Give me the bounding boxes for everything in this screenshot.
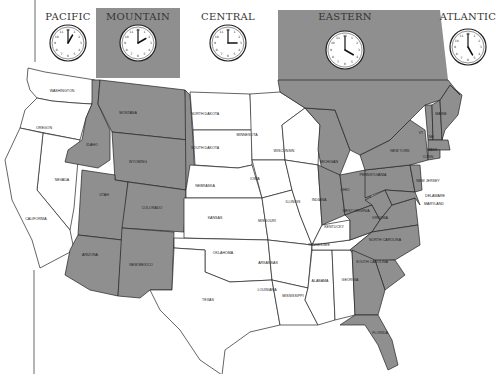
svg-text:9: 9 <box>454 45 456 49</box>
svg-text:8: 8 <box>332 55 334 59</box>
svg-text:4: 4 <box>78 48 80 52</box>
zone-label-eastern: EASTERN <box>318 11 372 22</box>
svg-text:2: 2 <box>78 35 80 39</box>
label-georgia: GEORGIA <box>342 278 359 282</box>
label-utah: UTAH <box>99 193 109 197</box>
label-louisiana: LOUISIANA <box>257 288 277 292</box>
label-wyoming: WYOMING <box>129 160 147 164</box>
svg-text:6: 6 <box>344 62 346 66</box>
svg-text:10: 10 <box>331 41 335 45</box>
svg-text:3: 3 <box>80 41 82 45</box>
svg-text:1: 1 <box>234 30 236 34</box>
clock-pacific: 123456789101112 <box>50 25 86 61</box>
label-new-mexico: NEW MEXICO <box>129 263 153 267</box>
svg-text:9: 9 <box>54 41 56 45</box>
label-california: CALIFORNIA <box>25 217 47 221</box>
svg-text:7: 7 <box>461 56 463 60</box>
label-illinois: ILLINOIS <box>286 200 301 204</box>
state-florida[interactable] <box>340 315 398 370</box>
svg-text:4: 4 <box>148 48 150 52</box>
svg-text:5: 5 <box>474 56 476 60</box>
label-florida: FLORIDA <box>372 331 388 335</box>
label-arizona: ARIZONA <box>82 253 99 257</box>
label-oregon: OREGON <box>36 126 52 130</box>
svg-text:2: 2 <box>148 35 150 39</box>
label-virginia: VIRGINIA <box>372 216 388 220</box>
svg-text:2: 2 <box>356 41 358 45</box>
state-arizona[interactable] <box>65 235 122 296</box>
svg-text:5: 5 <box>351 60 353 64</box>
clock-atlantic: 123456789101112 <box>450 29 486 65</box>
label-south-carolina: SOUTH CAROLINA <box>356 260 389 264</box>
label-texas: TEXAS <box>202 298 214 302</box>
svg-text:10: 10 <box>125 35 129 39</box>
label-maryland: MARYLAND <box>424 202 444 206</box>
svg-text:7: 7 <box>131 52 133 56</box>
clock-mountain: 123456789101112 <box>120 25 156 61</box>
state-utah[interactable] <box>78 170 128 240</box>
label-idaho: IDAHO <box>86 143 98 147</box>
label-indiana: INDIANA <box>312 198 327 202</box>
svg-text:2: 2 <box>478 39 480 43</box>
zone-label-central: CENTRAL <box>201 11 255 22</box>
svg-text:3: 3 <box>240 41 242 45</box>
label-connecticut: CONN <box>423 155 434 159</box>
state-montana[interactable] <box>98 80 188 140</box>
state-kansas[interactable] <box>184 198 268 240</box>
label-massachusetts: MASS <box>427 148 438 152</box>
label-west-virginia: WEST VIRGINIA <box>342 209 370 213</box>
label-tennessee: TENNESSEE <box>308 243 330 247</box>
zone-label-atlantic: ATLANTIC <box>439 11 496 22</box>
label-nebraska: NEBRASKA <box>195 184 215 188</box>
svg-text:5: 5 <box>234 52 236 56</box>
svg-text:3: 3 <box>480 45 482 49</box>
label-pennsylvania: PENNSYLVANIA <box>359 173 387 177</box>
label-montana: MONTANA <box>119 111 137 115</box>
label-new-jersey: NEW JERSEY <box>416 179 440 183</box>
state-indiana[interactable] <box>318 165 345 225</box>
svg-text:5: 5 <box>144 52 146 56</box>
label-maine: MAINE <box>435 112 447 116</box>
svg-text:7: 7 <box>337 60 339 64</box>
svg-text:6: 6 <box>67 54 69 58</box>
svg-text:4: 4 <box>238 48 240 52</box>
label-colorado: COLORADO <box>142 206 163 210</box>
svg-text:6: 6 <box>227 54 229 58</box>
label-south-dakota: SOUTH DAKOTA <box>191 146 220 150</box>
svg-text:10: 10 <box>55 35 59 39</box>
svg-text:9: 9 <box>214 41 216 45</box>
svg-text:1: 1 <box>144 30 146 34</box>
svg-text:11: 11 <box>336 36 340 40</box>
state-north-dakota[interactable] <box>190 92 252 130</box>
svg-text:9: 9 <box>330 48 332 52</box>
svg-text:5: 5 <box>74 52 76 56</box>
label-michigan: MICHIGAN <box>320 160 338 164</box>
svg-text:1: 1 <box>474 34 476 38</box>
svg-text:9: 9 <box>124 41 126 45</box>
clock-central: 123456789101112 <box>210 25 246 61</box>
svg-text:7: 7 <box>221 52 223 56</box>
svg-text:6: 6 <box>137 54 139 58</box>
svg-text:3: 3 <box>358 48 360 52</box>
svg-text:8: 8 <box>456 52 458 56</box>
label-mississippi: MISSISSIPPI <box>282 294 303 298</box>
label-arkansas: ARKANSAS <box>258 261 278 265</box>
zone-label-mountain: MOUNTAIN <box>106 11 170 22</box>
state-nebraska[interactable] <box>186 165 262 198</box>
svg-text:10: 10 <box>455 39 459 43</box>
label-north-dakota: NORTH DAKOTA <box>191 112 220 116</box>
svg-text:8: 8 <box>56 48 58 52</box>
zone-label-pacific: PACIFIC <box>45 11 90 22</box>
svg-text:7: 7 <box>61 52 63 56</box>
label-alabama: ALABAMA <box>312 279 330 283</box>
time-zone-map: PACIFIC MOUNTAIN CENTRAL EASTERN ATLANTI… <box>0 0 496 374</box>
svg-text:6: 6 <box>467 58 469 62</box>
label-minnesota: MINNESOTA <box>236 133 258 137</box>
svg-text:2: 2 <box>238 35 240 39</box>
svg-text:4: 4 <box>478 52 480 56</box>
label-wisconsin: WISCONSIN <box>274 149 295 153</box>
svg-text:1: 1 <box>74 30 76 34</box>
svg-text:8: 8 <box>126 48 128 52</box>
label-vermont: VT <box>419 131 424 135</box>
state-alabama[interactable] <box>332 250 355 320</box>
